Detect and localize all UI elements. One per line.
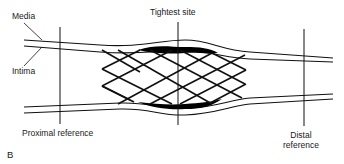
stent-mesh [102, 50, 246, 104]
tightest-site-label: Tightest site [150, 8, 196, 17]
label-leaders [24, 23, 42, 66]
panel-letter: B [7, 150, 13, 160]
intima-leader-line [24, 47, 42, 66]
proximal-reference-label: Proximal reference [22, 129, 93, 138]
distal-reference-label-line1: Distal [283, 130, 319, 140]
distal-reference-label: Distal reference [283, 130, 319, 150]
distal-reference-label-line2: reference [283, 140, 319, 150]
intima-label: Intima [12, 67, 35, 76]
media-label: Media [12, 12, 35, 21]
media-leader-line [24, 23, 42, 40]
